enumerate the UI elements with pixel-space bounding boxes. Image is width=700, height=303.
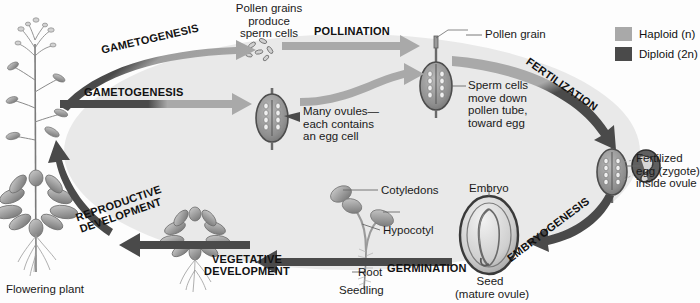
legend-item-diploid: Diploid (2n): [615, 47, 698, 61]
legend-swatch-haploid: [615, 27, 632, 41]
annotation-fertilized-egg-zygote: Fertilized egg (zygote) inside ovule: [636, 152, 700, 190]
stage-label-vegetative-development: VEGETATIVE DEVELOPMENT: [204, 253, 290, 277]
legend-label-haploid: Haploid (n): [639, 28, 695, 40]
annotation-seedling: Seedling: [339, 284, 384, 297]
seed-illustration: [460, 196, 518, 274]
legend: Haploid (n) Diploid (2n): [615, 27, 698, 61]
stage-label-germination: GERMINATION: [387, 262, 467, 274]
annotation-embryo: Embryo: [469, 182, 509, 195]
annotation-flowering-plant: Flowering plant: [6, 283, 84, 296]
annotation-pollen-grains-produce-sperm-cells: Pollen grains produce sperm cells: [226, 2, 312, 40]
annotation-pollen-grain: Pollen grain: [485, 28, 546, 41]
plant-life-cycle-diagram: GAMETOGENESIS GAMETOGENESIS POLLINATION …: [0, 0, 700, 303]
annotation-seed: Seed (mature ovule): [455, 275, 525, 300]
legend-label-diploid: Diploid (2n): [639, 48, 698, 60]
annotation-cotyledons: Cotyledons: [381, 184, 439, 197]
annotation-hypocotyl: Hypocotyl: [383, 224, 434, 237]
annotation-sperm-cells-move-down: Sperm cells move down pollen tube, towar…: [468, 79, 528, 129]
annotation-many-ovules: Many ovules— each contains an egg cell: [303, 105, 379, 143]
legend-item-haploid: Haploid (n): [615, 27, 698, 41]
stage-label-pollination: POLLINATION: [314, 25, 390, 37]
annotation-root: Root: [358, 266, 382, 279]
stage-label-gametogenesis-female: GAMETOGENESIS: [84, 86, 184, 98]
legend-swatch-diploid: [615, 47, 632, 61]
